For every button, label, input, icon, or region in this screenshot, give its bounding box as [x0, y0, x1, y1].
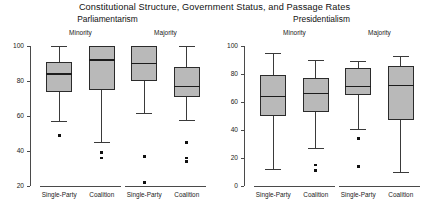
- y-tick: [27, 116, 30, 117]
- whisker-cap-upper: [308, 60, 324, 61]
- y-tick-label: 0: [214, 183, 238, 190]
- whisker-cap-lower: [350, 129, 366, 130]
- whisker-cap-upper: [265, 53, 281, 54]
- box-iqr: [46, 62, 72, 92]
- x-axis-segment: [40, 186, 121, 187]
- median-line: [345, 86, 371, 87]
- y-tick: [241, 158, 244, 159]
- x-category-label: Coalition: [371, 191, 429, 198]
- group-label-majority: Majority: [136, 29, 196, 36]
- median-line: [303, 93, 329, 94]
- y-tick: [241, 186, 244, 187]
- y-tick-label: 20: [0, 183, 24, 190]
- outlier-point: [314, 164, 317, 167]
- x-axis-segment: [339, 186, 420, 187]
- median-line: [388, 85, 414, 86]
- outlier-point: [58, 134, 61, 137]
- panel-parliamentarism: Parliamentarism20406080100Single-PartyCo…: [0, 0, 215, 212]
- group-label-majority: Majority: [350, 29, 410, 36]
- outlier-point: [185, 160, 188, 163]
- y-tick-label: 40: [214, 127, 238, 134]
- x-axis-segment: [254, 186, 335, 187]
- box-iqr: [388, 66, 414, 121]
- panel-presidentialism: Presidentialism020406080100Single-PartyC…: [214, 0, 429, 212]
- median-line: [174, 86, 200, 87]
- whisker-cap-lower: [51, 121, 67, 122]
- box-iqr: [345, 68, 371, 95]
- outlier-point: [143, 155, 146, 158]
- panel-title: Presidentialism: [214, 14, 429, 24]
- y-tick: [27, 151, 30, 152]
- x-axis-segment: [125, 186, 206, 187]
- box-iqr: [174, 67, 200, 97]
- outlier-point: [314, 169, 317, 172]
- whisker-cap-lower: [308, 148, 324, 149]
- whisker-cap-lower: [393, 172, 409, 173]
- x-category-label: Coalition: [157, 191, 217, 198]
- median-line: [89, 59, 115, 60]
- median-line: [260, 96, 286, 97]
- outlier-point: [100, 151, 103, 154]
- y-axis-line: [30, 46, 31, 186]
- y-tick: [241, 102, 244, 103]
- whisker-cap-lower: [136, 113, 152, 114]
- y-tick: [241, 74, 244, 75]
- y-tick-label: 100: [0, 43, 24, 50]
- y-tick-label: 60: [0, 113, 24, 120]
- panel-title: Parliamentarism: [0, 14, 215, 24]
- y-tick-label: 60: [214, 99, 238, 106]
- median-line: [46, 73, 72, 74]
- box-iqr: [303, 78, 329, 112]
- outlier-point: [357, 137, 360, 140]
- y-tick-label: 80: [0, 78, 24, 85]
- whisker-cap-upper: [393, 56, 409, 57]
- outlier-point: [185, 141, 188, 144]
- y-tick-label: 40: [0, 148, 24, 155]
- y-tick: [241, 46, 244, 47]
- y-axis-line: [244, 46, 245, 186]
- whisker-cap-upper: [350, 61, 366, 62]
- chart-root: Constitutional Structure, Government Sta…: [0, 0, 429, 212]
- y-tick: [27, 81, 30, 82]
- whisker-cap-lower: [94, 142, 110, 143]
- outlier-point: [143, 181, 146, 184]
- y-tick-label: 80: [214, 71, 238, 78]
- y-tick-label: 100: [214, 43, 238, 50]
- outlier-point: [100, 157, 103, 160]
- group-label-minority: Minority: [265, 29, 325, 36]
- whisker-cap-lower: [179, 120, 195, 121]
- y-tick: [241, 130, 244, 131]
- outlier-point: [357, 165, 360, 168]
- median-line: [131, 63, 157, 64]
- outlier-point: [185, 157, 188, 160]
- y-tick-label: 20: [214, 155, 238, 162]
- y-tick: [27, 186, 30, 187]
- whisker-cap-upper: [51, 46, 67, 47]
- box-iqr: [89, 46, 115, 90]
- y-tick: [27, 46, 30, 47]
- whisker-cap-lower: [265, 169, 281, 170]
- group-label-minority: Minority: [51, 29, 111, 36]
- whisker-cap-upper: [179, 46, 195, 47]
